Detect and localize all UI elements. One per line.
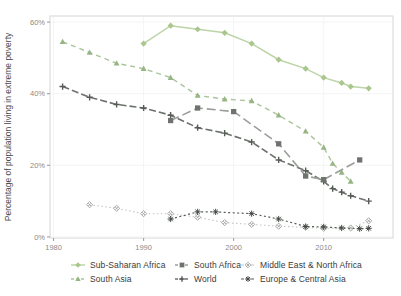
poverty-chart-figure: Percentage of population living in extre… xyxy=(0,0,401,296)
square-marker-icon xyxy=(180,262,185,267)
x-tick-label: 1990 xyxy=(135,243,152,252)
square-marker-icon xyxy=(195,105,200,110)
asterisk-marker-icon xyxy=(366,225,372,231)
legend-item-eca: Europe & Central Asia xyxy=(240,273,380,284)
diamond-legend-key-icon xyxy=(70,260,86,270)
x-tick-label: 1980 xyxy=(45,243,62,252)
square-marker-icon xyxy=(321,177,326,182)
square-marker-icon xyxy=(276,141,281,146)
y-tick-label: 20% xyxy=(30,161,45,170)
square-marker-icon xyxy=(168,118,173,123)
triangle-legend-key-icon xyxy=(70,274,86,284)
legend-label-south_africa: South Africa xyxy=(194,260,241,270)
y-tick-label: 40% xyxy=(30,89,45,98)
asterisk-marker-icon xyxy=(276,216,282,222)
asterisk-marker-icon xyxy=(168,216,174,222)
x-tick-label: 2010 xyxy=(315,243,332,252)
y-tick-label: 60% xyxy=(30,18,45,27)
asterisk-marker-icon xyxy=(213,209,219,215)
x-tick-label: 2000 xyxy=(225,243,242,252)
legend-label-world: World xyxy=(194,274,217,284)
plus-marker-icon xyxy=(179,276,185,282)
legend-label-eca: Europe & Central Asia xyxy=(260,274,346,284)
asterisk-marker-icon xyxy=(303,223,309,229)
legend-item-world: World xyxy=(174,273,240,284)
asterisk-legend-key-icon xyxy=(240,274,256,284)
asterisk-marker-icon xyxy=(339,225,345,231)
asterisk-marker-icon xyxy=(357,226,363,232)
legend-item-sub_saharan_africa: Sub-Saharan Africa xyxy=(70,259,174,270)
asterisk-marker-icon xyxy=(195,209,201,215)
square-marker-icon xyxy=(357,157,362,162)
asterisk-marker-icon xyxy=(321,224,327,230)
chart-legend: Sub-Saharan AfricaSouth AfricaMiddle Eas… xyxy=(70,259,380,284)
y-tick-label: 0% xyxy=(34,233,45,242)
plot-panel xyxy=(50,16,393,238)
legend-item-south_africa: South Africa xyxy=(174,259,240,270)
poverty-line-chart: Percentage of population living in extre… xyxy=(0,0,401,256)
square-marker-icon xyxy=(303,173,308,178)
y-axis-title: Percentage of population living in extre… xyxy=(3,32,13,221)
legend-label-mena: Middle East & North Africa xyxy=(260,260,362,270)
plus-legend-key-icon xyxy=(174,274,190,284)
legend-label-south_asia: South Asia xyxy=(90,274,132,284)
legend-label-sub_saharan_africa: Sub-Saharan Africa xyxy=(90,260,166,270)
square-marker-icon xyxy=(231,109,236,114)
legend-item-south_asia: South Asia xyxy=(70,273,174,284)
square-legend-key-icon xyxy=(174,260,190,270)
legend-item-mena: Middle East & North Africa xyxy=(240,259,380,270)
diamond-marker-icon xyxy=(75,262,81,268)
asterisk-marker-icon xyxy=(249,211,255,217)
diamond_x-legend-key-icon xyxy=(240,260,256,270)
asterisk-marker-icon xyxy=(245,276,251,282)
